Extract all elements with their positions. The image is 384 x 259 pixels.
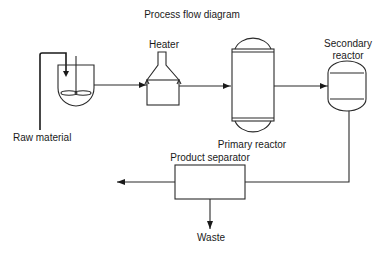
waste-label: Waste bbox=[197, 232, 225, 243]
waste-line bbox=[207, 199, 213, 229]
heater bbox=[145, 52, 181, 105]
primary-reactor-label: Primary reactor bbox=[218, 139, 286, 150]
secondary-reactor-label-line2: reactor bbox=[332, 50, 363, 61]
diagram-title: Process flow diagram bbox=[144, 9, 240, 20]
tank-to-heater-line bbox=[94, 82, 147, 88]
secondary-reactor-label-line1: Secondary bbox=[324, 38, 372, 49]
raw-material-label: Raw material bbox=[13, 132, 71, 143]
product-separator bbox=[175, 165, 245, 199]
product-separator-label: Product separator bbox=[170, 152, 250, 163]
heater-label: Heater bbox=[149, 39, 179, 50]
primary-reactor bbox=[232, 38, 274, 132]
mixing-tank bbox=[58, 56, 94, 106]
heater-to-primary-line bbox=[179, 83, 231, 89]
primary-to-secondary-line bbox=[274, 83, 328, 89]
product-output-line bbox=[117, 179, 175, 185]
secondary-reactor bbox=[328, 61, 366, 111]
